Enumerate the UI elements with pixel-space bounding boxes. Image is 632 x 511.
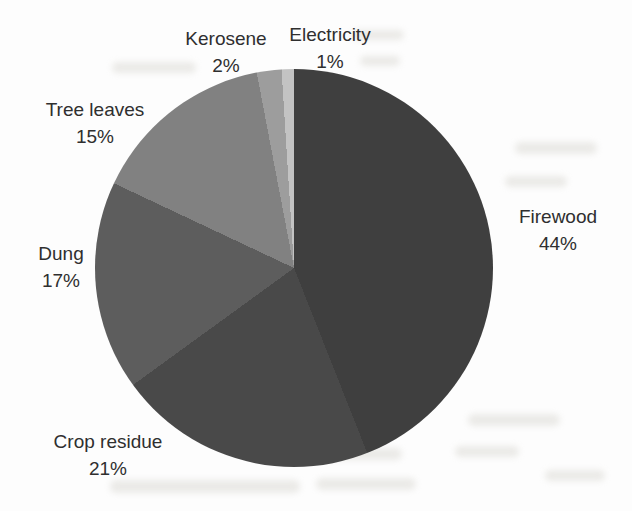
slice-percent: 17%: [38, 267, 83, 294]
slice-label-tree-leaves: Tree leaves 15%: [46, 96, 145, 150]
bleedthrough-mark: [545, 470, 605, 481]
scanned-page: Firewood 44% Crop residue 21% Dung 17% T…: [0, 0, 632, 511]
slice-name: Dung: [38, 240, 83, 267]
slice-percent: 1%: [289, 48, 370, 75]
slice-name: Tree leaves: [46, 96, 145, 123]
slice-name: Electricity: [289, 21, 370, 48]
bleedthrough-mark: [468, 414, 560, 426]
slice-name: Crop residue: [54, 428, 163, 455]
slice-label-dung: Dung 17%: [38, 240, 83, 294]
bleedthrough-mark: [316, 478, 416, 490]
bleedthrough-mark: [112, 62, 196, 73]
slice-label-firewood: Firewood 44%: [519, 203, 597, 257]
bleedthrough-mark: [515, 142, 597, 154]
slice-percent: 44%: [519, 230, 597, 257]
slice-percent: 21%: [54, 455, 163, 482]
slice-name: Firewood: [519, 203, 597, 230]
bleedthrough-mark: [455, 446, 519, 457]
pie-chart: [95, 69, 493, 467]
slice-label-kerosene: Kerosene 2%: [185, 25, 266, 79]
slice-percent: 15%: [46, 123, 145, 150]
slice-label-crop-residue: Crop residue 21%: [54, 428, 163, 482]
bleedthrough-mark: [505, 176, 567, 187]
slice-name: Kerosene: [185, 25, 266, 52]
slice-label-electricity: Electricity 1%: [289, 21, 370, 75]
slice-percent: 2%: [185, 52, 266, 79]
